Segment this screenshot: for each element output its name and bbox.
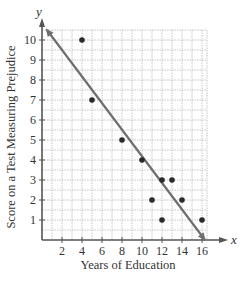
data-point — [119, 137, 125, 143]
regression-line-segment — [47, 30, 205, 240]
y-tick-label: 8 — [30, 73, 36, 87]
y-tick-label: 1 — [30, 213, 36, 227]
y-axis-variable: y — [34, 4, 42, 19]
data-point — [159, 217, 165, 223]
x-tick-label: 12 — [156, 244, 168, 258]
data-point — [139, 157, 145, 163]
x-tick-label: 6 — [99, 244, 105, 258]
y-tick-label: 9 — [30, 53, 36, 67]
y-axis-label: Score on a Test Measuring Prejudice — [4, 45, 18, 229]
y-tick-label: 2 — [30, 193, 36, 207]
data-point — [149, 197, 155, 203]
scatter-chart: 24681012141612345678910 Years of Educati… — [0, 0, 240, 283]
data-point — [159, 177, 165, 183]
y-tick-label: 4 — [30, 153, 36, 167]
x-tick-label: 16 — [196, 244, 208, 258]
y-axis-arrow-icon — [39, 18, 45, 27]
data-point — [79, 37, 85, 43]
data-point — [199, 217, 205, 223]
x-tick-label: 10 — [136, 244, 148, 258]
y-tick-label: 3 — [30, 173, 36, 187]
x-axis-arrow-icon — [219, 237, 228, 243]
axes — [39, 18, 228, 243]
x-axis-label: Years of Education — [80, 258, 176, 272]
y-tick-label: 10 — [24, 33, 36, 47]
x-tick-label: 8 — [119, 244, 125, 258]
x-tick-label: 2 — [59, 244, 65, 258]
y-tick-label: 5 — [30, 133, 36, 147]
data-point — [89, 97, 95, 103]
y-tick-label: 6 — [30, 113, 36, 127]
x-tick-label: 4 — [79, 244, 85, 258]
y-tick-label: 7 — [30, 93, 36, 107]
data-point — [169, 177, 175, 183]
x-axis-variable: x — [230, 232, 237, 247]
x-tick-label: 14 — [176, 244, 188, 258]
data-point — [179, 197, 185, 203]
